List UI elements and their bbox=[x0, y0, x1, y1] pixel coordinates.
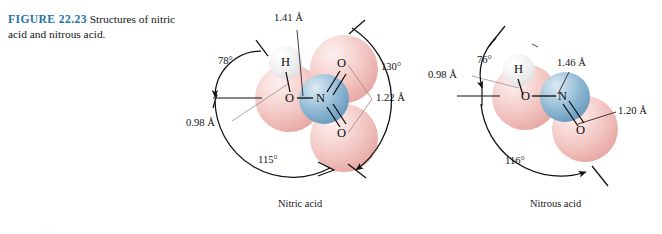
angle-tick-130-bottom-nitric bbox=[348, 164, 366, 178]
angle-tick-78-nitric bbox=[256, 40, 268, 56]
atom-label-n-nitrous: N bbox=[558, 90, 567, 103]
bond-n-o-upper-b-nitric bbox=[333, 74, 346, 95]
bond-angle-label-78-nitric: 78° bbox=[218, 56, 233, 67]
angle-tick-76-nitrous bbox=[489, 26, 505, 46]
figure-container: FIGURE 22.23 Structures of nitric acid a… bbox=[0, 0, 662, 234]
leader-1-41-nitric bbox=[297, 30, 303, 96]
bond-length-label-0-98-nitrous: 0.98 Å bbox=[428, 70, 457, 81]
bond-angle-label-130-nitric: 130° bbox=[381, 62, 401, 73]
leader-0-98-nitrous bbox=[472, 76, 519, 88]
bond-length-label-1-41-nitric: 1.41 Å bbox=[274, 13, 303, 24]
bond-length-label-0-98-nitric: 0.98 Å bbox=[186, 118, 215, 129]
atom-label-o-lower-nitric: O bbox=[337, 127, 346, 140]
angle-arrow-115-end-nitric bbox=[318, 162, 334, 176]
angle-arc-115-nitric bbox=[215, 101, 330, 177]
bracket-1-22-nitric bbox=[348, 65, 372, 133]
bond-n-o-lower-b-nitric bbox=[333, 104, 346, 124]
atom-label-o-hydroxyl-nitric: O bbox=[285, 92, 294, 105]
atom-label-o-double-nitrous: O bbox=[576, 124, 585, 137]
atom-label-o-upper-nitric: O bbox=[337, 57, 346, 70]
bond-angle-label-115-nitric: 115° bbox=[258, 155, 278, 166]
bond-angle-label-116-nitrous: 116° bbox=[505, 156, 525, 167]
molecule-illustration-stage: H O N O O 1.41 Å 1.22 Å 0.98 Å 78° 115° … bbox=[0, 0, 662, 234]
atom-label-o-hydroxyl-nitrous: O bbox=[521, 90, 530, 103]
stray-tick-nitrous bbox=[532, 44, 538, 47]
page-edge-artifact: ··· bbox=[42, 227, 54, 233]
molecule-name-nitrous: Nitrous acid bbox=[530, 198, 581, 209]
bond-n-o-lower-a-nitric bbox=[327, 107, 340, 127]
bond-length-label-1-20-nitrous: 1.20 Å bbox=[618, 106, 647, 117]
bond-length-label-1-22-nitric: 1.22 Å bbox=[376, 93, 405, 104]
bond-n-o-upper-a-nitric bbox=[327, 71, 340, 92]
molecule-name-nitric: Nitric acid bbox=[278, 198, 322, 209]
atom-label-h-nitrous: H bbox=[514, 63, 523, 76]
bond-angle-label-76-nitrous: 76° bbox=[477, 55, 492, 66]
bond-h-o-nitric bbox=[286, 72, 290, 92]
angle-tick-116-nitrous bbox=[592, 166, 608, 186]
bond-n-o-b-nitrous bbox=[569, 101, 584, 123]
atom-label-n-nitric: N bbox=[316, 92, 325, 105]
atom-label-h-nitric: H bbox=[281, 56, 290, 69]
leader-0-98-nitric bbox=[232, 84, 288, 121]
bond-length-label-1-46-nitrous: 1.46 Å bbox=[557, 58, 586, 69]
